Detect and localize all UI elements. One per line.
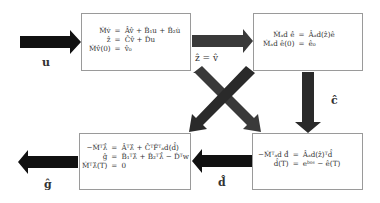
backward-to-state-arrow — [192, 149, 252, 173]
backward-adjoint-state-box: −M̂ᵀλ̇̂ = Âᵀλ̂ + ĈᵀF̂ᵀₐd(d̂) ĝ = B̂₁ᵀλ̂ … — [79, 133, 191, 190]
input-label: u — [42, 56, 50, 69]
forward-state-box: M̂v̇ = Âv̂ + B̂₁u + B̂₂u̇ ẑ = Ĉv̂ + D̂u … — [81, 13, 191, 71]
forward-state-equations: M̂v̇ = Âv̂ + B̂₁u + B̂₂u̇ ẑ = Ĉv̂ + D̂u … — [88, 26, 181, 53]
backward-adjoint-state-equations: −M̂ᵀλ̇̂ = Âᵀλ̂ + ĈᵀF̂ᵀₐd(d̂) ĝ = B̂₁ᵀλ̂ … — [81, 143, 190, 170]
backward-adjoint-model-equations: −M̂ᵀₐd ḋ̂ = Âₐd(ẑ)ᵀd̂ d̂(T) = eᵇᵒˢ − ê(T… — [257, 150, 341, 168]
output-arrow — [18, 150, 78, 174]
model-to-backward-arrow — [295, 72, 321, 133]
cross-arrows — [189, 66, 261, 132]
backward-to-state-label: d̂ — [218, 176, 226, 189]
state-to-model-label: ẑ = v̂ — [195, 53, 218, 63]
input-arrow — [20, 30, 81, 54]
backward-adjoint-model-box: −M̂ᵀₐd ḋ̂ = Âₐd(ẑ)ᵀd̂ d̂(T) = eᵇᵒˢ − ê(T… — [252, 133, 363, 190]
forward-adjoint-model-box: M̂ₐd ė̂ = Âₐd(ẑ)ê M̂ₐd ê(0) = ê₀ — [253, 13, 363, 71]
state-to-model-arrow — [192, 29, 253, 53]
forward-adjoint-model-equations: M̂ₐd ė̂ = Âₐd(ẑ)ê M̂ₐd ê(0) = ê₀ — [262, 30, 336, 48]
output-label: ĝ — [44, 178, 52, 191]
model-to-backward-label: ĉ — [331, 94, 338, 107]
